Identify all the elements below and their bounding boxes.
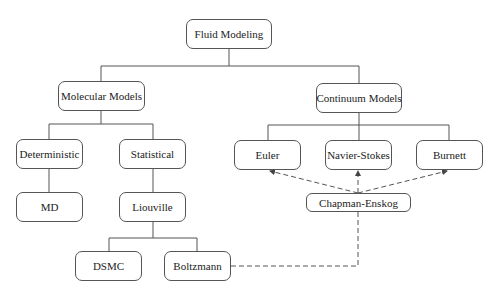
node-fluid-modeling: Fluid Modeling bbox=[186, 19, 272, 49]
node-boltzmann: Boltzmann bbox=[164, 251, 231, 281]
node-deterministic: Deterministic bbox=[16, 139, 83, 169]
node-molecular-models: Molecular Models bbox=[58, 81, 145, 111]
node-statistical: Statistical bbox=[119, 139, 186, 169]
node-dsmc: DSMC bbox=[75, 251, 142, 281]
node-euler: Euler bbox=[234, 140, 301, 170]
node-burnett: Burnett bbox=[416, 140, 483, 170]
node-continuum-models: Continuum Models bbox=[316, 83, 402, 113]
node-navier-stokes: Navier-Stokes bbox=[325, 140, 392, 170]
node-liouville: Liouville bbox=[119, 192, 186, 222]
node-chapman-enskog: Chapman-Enskog bbox=[306, 193, 411, 212]
node-md: MD bbox=[16, 192, 83, 222]
